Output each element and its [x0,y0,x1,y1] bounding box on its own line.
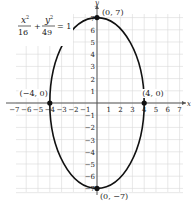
x-tick-label: 7 [177,106,181,114]
eq-y-exponent: 2 [50,14,53,20]
point-marker [94,186,99,191]
x-axis-arrow-icon [182,101,186,105]
y-tick-label: −5 [85,161,95,169]
y-tick-label: −1 [85,112,95,120]
x-tick-label: 5 [154,106,158,114]
y-tick-label: 2 [91,76,95,84]
chart-canvas: xy −7−6−5−4−3−2−11234567−7−6−5−4−3−2−112… [0,0,191,201]
y-tick-label: −4 [85,149,96,157]
x-tick-label: −2 [68,106,78,114]
y-tick-label: −3 [85,137,95,145]
y-tick-label: 3 [91,63,95,71]
point-label: (−4, 0) [20,89,48,98]
point-label: (4, 0) [142,89,164,98]
equation-label: x 2 16 + y 2 49 = 1 [15,14,73,46]
y-tick-label: −2 [85,124,95,132]
eq-x-exponent: 2 [26,14,29,20]
y-tick-label: 5 [91,39,95,47]
x-tick-label: −6 [21,106,32,114]
ellipse-graph: xy −7−6−5−4−3−2−11234567−7−6−5−4−3−2−112… [0,0,191,201]
point-marker [94,15,99,20]
x-tick-label: 1 [107,106,111,114]
point-marker [142,100,147,105]
y-tick-label: 1 [91,88,95,96]
y-axis-label: y [94,0,100,7]
eq-x-denominator: 16 [18,28,28,37]
x-tick-label: −7 [9,106,19,114]
point-marker [47,100,52,105]
x-tick-label: −3 [56,106,66,114]
point-label: (0, 7) [102,8,124,17]
x-tick-label: 3 [130,106,134,114]
y-tick-label: 6 [91,27,96,35]
eq-plus: + [34,22,41,31]
x-tick-label: 6 [166,106,171,114]
eq-equals: = 1 [57,22,71,31]
x-tick-label: 2 [118,106,122,114]
eq-y-denominator: 49 [42,28,52,37]
y-tick-label: 4 [91,51,96,59]
x-axis-label: x [187,100,191,108]
x-tick-label: −5 [33,106,43,114]
point-label: (0, −7) [100,192,128,201]
y-tick-label: −6 [85,173,96,181]
